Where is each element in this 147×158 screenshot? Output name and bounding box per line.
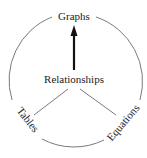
arrow-head-icon (71, 25, 78, 36)
line-to-equations (80, 89, 116, 115)
circle-arc-bottom (42, 139, 104, 147)
line-to-tables (34, 89, 68, 115)
circle-arc-top-left (9, 17, 52, 100)
node-tables-label: Tables (15, 105, 42, 135)
arrow-to-graphs (71, 25, 78, 70)
node-equations-label: Equations (104, 102, 141, 143)
center-label-relationships: Relationships (44, 73, 104, 85)
node-graphs-label: Graphs (58, 10, 90, 22)
circle-arc-top-right (96, 17, 143, 100)
relationships-diagram: Graphs Relationships Tables Equations (0, 0, 147, 158)
